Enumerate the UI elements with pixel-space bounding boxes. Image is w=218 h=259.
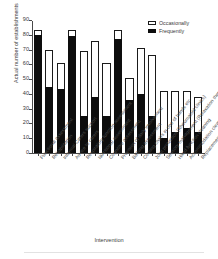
bar-segment-frequently [183,128,191,153]
legend-swatch-occasionally-icon [148,21,156,26]
scan-artifact-rule [24,252,204,253]
bar [148,55,156,153]
x-axis-tick-mark [118,154,119,156]
stacked-bar-chart: Actual number of establishments 01020304… [0,0,218,259]
x-axis-tick-mark [164,154,165,156]
x-axis-tick-mark [129,154,130,156]
y-axis-tick-mark [29,79,32,80]
bar-segment-frequently [45,87,53,154]
bar-segment-frequently [57,89,65,153]
bar-segment-frequently [137,94,145,153]
bar-segment-frequently [125,100,133,153]
bar-segment-frequently [171,132,179,153]
x-axis-title: Intervention [0,237,218,243]
legend-item-occasionally: Occasionally [148,19,189,27]
x-axis-tick-mark [61,154,62,156]
y-axis-tick-mark [29,94,32,95]
y-axis-tick-mark [29,153,32,154]
y-axis-tick-mark [29,138,32,139]
legend-label-occasionally: Occasionally [159,20,189,26]
legend-label-frequently: Frequently [159,28,184,34]
bar-segment-frequently [160,138,168,153]
x-axis-tick-mark [198,154,199,156]
x-axis-tick-mark [107,154,108,156]
bar-segment-frequently [114,39,122,153]
bar [137,48,145,153]
bar-segment-frequently [102,116,110,153]
x-axis-tick-mark [175,154,176,156]
legend-swatch-frequently-icon [148,29,156,34]
x-axis-tick-mark [38,154,39,156]
plot-area [32,20,204,153]
bar-segment-frequently [34,35,42,153]
bar-segment-frequently [148,116,156,153]
bar [160,91,168,153]
x-axis-tick-mark [84,154,85,156]
bar [45,50,53,153]
x-axis-tick-mark [152,154,153,156]
bar [114,30,122,153]
chart-legend: Occasionally Frequently [148,19,189,35]
y-axis-tick-mark [29,20,32,21]
bar [57,63,65,153]
bar [80,51,88,153]
bar [125,78,133,153]
bar [171,91,179,153]
bar [194,97,202,153]
y-axis-tick-mark [29,109,32,110]
bar [34,30,42,153]
bar-segment-frequently [80,116,88,153]
x-axis-tick-mark [49,154,50,156]
y-axis-tick-mark [29,50,32,51]
bar [183,91,191,153]
bar [68,30,76,153]
x-axis-tick-mark [141,154,142,156]
legend-item-frequently: Frequently [148,27,189,35]
y-axis-tick-labels: 0102030405060708090 [13,0,29,259]
bar-segment-frequently [91,97,99,153]
y-axis-tick-mark [29,123,32,124]
bar [91,41,99,153]
x-axis-tick-mark [72,154,73,156]
bar-segment-frequently [194,132,202,153]
x-axis-tick-mark [95,154,96,156]
bar-segment-frequently [68,36,76,153]
y-axis-tick-mark [29,35,32,36]
bar [102,63,110,153]
y-axis-tick-mark [29,64,32,65]
x-axis-tick-mark [187,154,188,156]
